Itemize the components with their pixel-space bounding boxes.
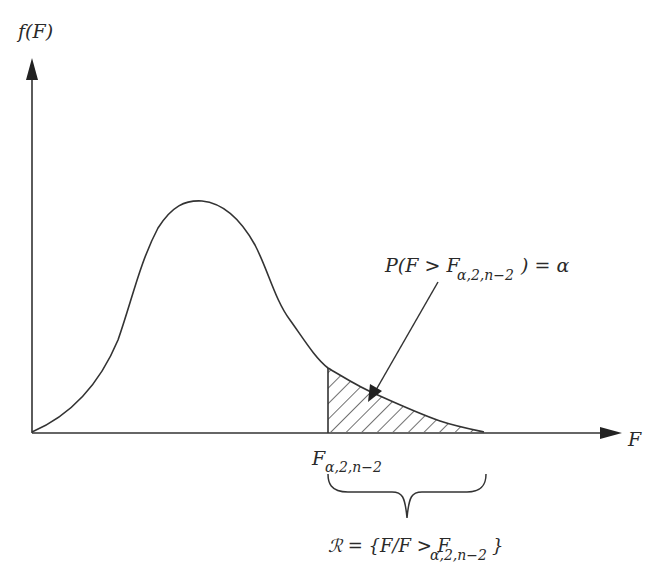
svg-text:}: }: [492, 535, 503, 556]
tail-probability-annotation: P(F > F α,2,n−2 ) = α: [368, 254, 569, 402]
f-distribution-diagram: f(F) F F α,2,n−2 P(F > F α,2,n−2 ) = α ℛ…: [0, 0, 664, 576]
y-axis-arrowhead-icon: [26, 58, 38, 80]
svg-text:α,2,n−2: α,2,n−2: [325, 459, 382, 475]
svg-text:α,2,n−2: α,2,n−2: [430, 547, 487, 563]
rejection-region-label: ℛ = {F/F > F α,2,n−2 }: [328, 535, 503, 563]
x-axis-arrowhead-icon: [600, 427, 622, 439]
svg-text:α,2,n−2: α,2,n−2: [457, 267, 514, 283]
y-axis-label: f(F): [16, 20, 53, 42]
svg-text:) = α: ) = α: [520, 254, 569, 276]
rejection-region-brace: [328, 474, 486, 518]
density-curve: [32, 201, 484, 432]
critical-value-label: F α,2,n−2: [311, 447, 382, 475]
y-axis: [26, 58, 38, 433]
rejection-tail-shading: [328, 360, 488, 434]
x-axis-label: F: [627, 428, 642, 450]
svg-text:P(F > F: P(F > F: [384, 254, 460, 276]
svg-text:F: F: [311, 447, 326, 469]
x-axis: [32, 427, 622, 439]
